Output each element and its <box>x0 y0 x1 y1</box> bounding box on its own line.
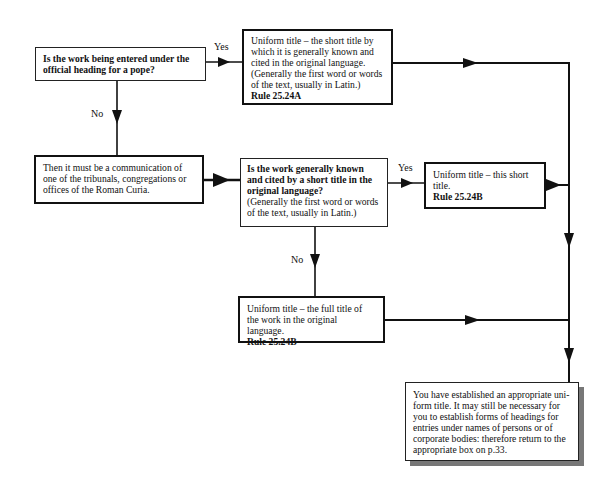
edge-label-no: No <box>91 108 103 119</box>
result-text: Uniform title – the full title of the wo… <box>247 303 376 336</box>
arrow-head-icon <box>401 178 413 188</box>
arrow-head-icon <box>564 348 574 363</box>
rule-reference: Rule 25.24B <box>433 191 537 202</box>
decision-text: Is the work being entered under the offi… <box>43 53 189 75</box>
decision-pope-heading: Is the work being entered under the offi… <box>35 47 206 81</box>
arrow-head-icon <box>213 173 230 187</box>
edge-label-yes: Yes <box>398 162 413 173</box>
arrow-head-icon <box>465 315 480 325</box>
arrow-head-icon <box>112 110 122 124</box>
arrow-head-icon <box>310 254 320 268</box>
result-uniform-short-title-a: Uniform title – the short title by which… <box>242 29 393 105</box>
rule-reference: Rule 25.24A <box>251 90 384 101</box>
decision-note: (Generally the first word or words of th… <box>247 196 381 218</box>
edge-label-no: No <box>291 254 303 265</box>
arrow-head-icon <box>218 57 230 67</box>
decision-text: Is the work generally known and cited by… <box>247 163 381 196</box>
final-instruction: You have established an appropriate uni-… <box>405 382 579 461</box>
result-text: Uniform title – the short title by which… <box>251 35 384 68</box>
arrow-head-icon <box>564 233 574 248</box>
arrow-head-icon <box>463 58 478 68</box>
statement-text: Then it must be a communication of one o… <box>43 162 186 195</box>
result-text: Uniform title – this short title. <box>433 169 537 191</box>
final-text: You have established an appropriate uni-… <box>413 389 569 455</box>
decision-short-title: Is the work generally known and cited by… <box>240 158 388 227</box>
result-note: (Generally the first word or words of th… <box>251 68 384 90</box>
edge-label-yes: Yes <box>214 41 229 52</box>
rule-reference: Rule 25.24B <box>247 336 376 347</box>
result-uniform-full-title: Uniform title – the full title of the wo… <box>238 296 385 343</box>
arrow-head-icon <box>546 179 561 191</box>
statement-roman-curia: Then it must be a communication of one o… <box>34 155 204 204</box>
result-uniform-short-title-b: Uniform title – this short title. Rule 2… <box>424 162 546 209</box>
